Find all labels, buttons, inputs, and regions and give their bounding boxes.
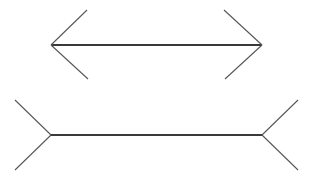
- top-right-upper-fin: [224, 10, 262, 45]
- bottom-right-lower-fin: [262, 135, 298, 170]
- bottom-figure: [15, 100, 298, 170]
- bottom-left-lower-fin: [15, 135, 51, 170]
- bottom-right-upper-fin: [262, 100, 298, 135]
- top-left-upper-fin: [51, 10, 87, 45]
- muller-lyer-canvas: [0, 0, 311, 178]
- top-left-lower-fin: [51, 45, 88, 79]
- top-figure: [51, 10, 262, 79]
- figure-svg: [0, 0, 311, 178]
- bottom-left-upper-fin: [15, 100, 51, 135]
- top-right-lower-fin: [225, 45, 262, 79]
